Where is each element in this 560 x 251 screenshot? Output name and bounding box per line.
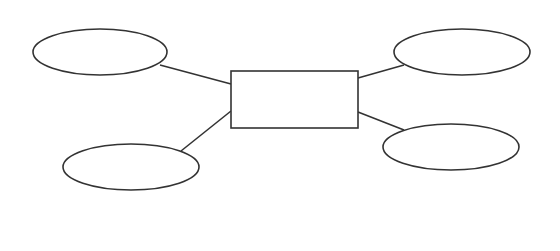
er-diagram-canvas — [0, 0, 560, 251]
entity-group — [231, 71, 358, 128]
attribute-top-left — [33, 29, 167, 75]
entity-rectangle — [231, 71, 358, 128]
attribute-top-right — [394, 29, 530, 75]
attribute-ellipse — [394, 29, 530, 75]
connector-bottom-right — [358, 112, 404, 130]
attribute-ellipse — [63, 144, 199, 190]
connector-top-left — [160, 65, 231, 84]
attribute-bottom-left — [63, 144, 199, 190]
attribute-bottom-right — [383, 124, 519, 170]
attribute-ellipse — [383, 124, 519, 170]
connector-bottom-left — [181, 111, 231, 151]
attribute-ellipse — [33, 29, 167, 75]
connector-top-right — [358, 65, 404, 78]
